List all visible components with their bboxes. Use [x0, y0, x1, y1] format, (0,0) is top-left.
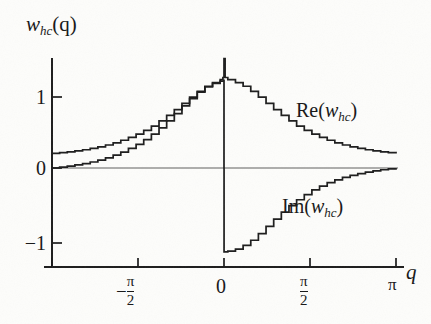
- minus-sign: −: [116, 281, 127, 302]
- x-axis-label: q: [406, 262, 417, 283]
- y-tick-label-1: 1: [20, 87, 46, 107]
- curve-label-im-prefix: Im(: [282, 195, 311, 217]
- y-tick-label-minus-1: −1: [14, 233, 46, 253]
- x-tick-label-minus-half-pi: −π2: [116, 274, 134, 309]
- y-tick-label-0: 0: [20, 158, 46, 178]
- x-tick-denominator-2: 2: [127, 293, 135, 309]
- x-tick-numerator-pi: π: [300, 274, 308, 290]
- figure-container: whc(q) q 1 0 −1 −π2 0 π2 π Re(whc) Im(wh…: [0, 0, 431, 324]
- y-axis-label-symbol: w: [26, 12, 40, 36]
- curve-label-re: Re(whc): [296, 100, 357, 123]
- curve-label-im-suffix: ): [337, 195, 344, 217]
- curve-label-re-symbol: w: [325, 99, 338, 121]
- y-axis-label: whc(q): [26, 14, 77, 37]
- x-tick-numerator-pi: π: [127, 274, 135, 290]
- curve-label-re-suffix: ): [351, 99, 358, 121]
- x-tick-label-half-pi: π2: [300, 274, 308, 309]
- y-axis-label-argument: (q): [52, 12, 77, 36]
- curve-label-im-symbol: w: [311, 195, 324, 217]
- curve-label-re-prefix: Re(: [296, 99, 325, 121]
- curve-label-re-subscript: hc: [338, 109, 350, 124]
- curve-label-im-subscript: hc: [324, 205, 336, 220]
- curve-label-im: Im(whc): [282, 196, 343, 219]
- y-axis-label-subscript: hc: [40, 23, 52, 38]
- x-tick-label-pi: π: [388, 276, 397, 293]
- x-tick-denominator-2: 2: [300, 293, 308, 309]
- x-tick-label-0: 0: [216, 276, 226, 296]
